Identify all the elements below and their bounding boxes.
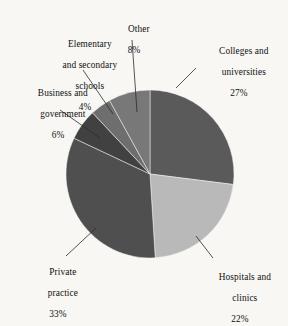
callout-elementary-percent: 4%	[38, 102, 132, 112]
callout-private-line2: practice	[48, 288, 78, 298]
callout-other-percent: 8%	[110, 45, 158, 55]
callout-colleges-line2: universities	[222, 67, 266, 77]
callout-private-percent: 33%	[20, 309, 96, 319]
callout-hospitals-line1: Hospitals and	[219, 272, 271, 282]
leader-line-private	[66, 228, 96, 256]
leader-line-colleges	[176, 68, 196, 88]
callout-elementary-line3: schools	[76, 81, 105, 91]
callout-other: Other 8%	[110, 14, 158, 76]
callout-colleges-percent: 27%	[196, 88, 282, 98]
callout-private-practice: Private practice 33%	[20, 257, 96, 326]
callout-colleges-line1: Colleges and	[219, 46, 268, 56]
callout-elementary-line2: and secondary	[62, 60, 117, 70]
callout-colleges-and-universities: Colleges and universities 27%	[196, 36, 282, 119]
callout-hospitals-percent: 22%	[196, 314, 284, 324]
pie-slice-hospitals-and-clinics	[150, 174, 233, 258]
leader-line-hospitals	[196, 236, 213, 258]
callout-elementary-line1: Elementary	[68, 39, 112, 49]
callout-other-line1: Other	[128, 24, 150, 34]
callout-hospitals-line2: clinics	[232, 293, 257, 303]
callout-private-line1: Private	[49, 267, 76, 277]
callout-hospitals-and-clinics: Hospitals and clinics 22%	[196, 262, 284, 326]
